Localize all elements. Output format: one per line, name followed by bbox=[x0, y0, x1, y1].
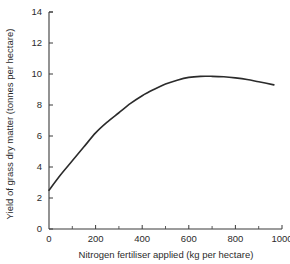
line-chart: Yield of grass dry matter (tonnes per he… bbox=[0, 0, 290, 264]
x-axis-title: Nitrogen fertiliser applied (kg per hect… bbox=[79, 249, 254, 260]
y-axis-title: Yield of grass dry matter (tonnes per he… bbox=[4, 29, 15, 220]
x-tick-label: 1000 bbox=[271, 233, 290, 244]
y-axis-tick-labels: 02468101214 bbox=[31, 6, 42, 234]
x-axis-tick-labels: 02004006008001000 bbox=[46, 233, 290, 244]
chart-figure: Yield of grass dry matter (tonnes per he… bbox=[0, 0, 290, 264]
y-tick-label: 2 bbox=[37, 192, 42, 203]
x-tick-label: 600 bbox=[181, 233, 197, 244]
x-tick-label: 400 bbox=[134, 233, 150, 244]
y-tick-label: 0 bbox=[37, 223, 42, 234]
x-tick-label: 0 bbox=[46, 233, 51, 244]
y-tick-label: 6 bbox=[37, 130, 42, 141]
x-tick-label: 200 bbox=[88, 233, 104, 244]
y-tick-label: 4 bbox=[37, 161, 42, 172]
y-axis-ticks bbox=[49, 12, 53, 229]
y-tick-label: 10 bbox=[31, 68, 42, 79]
y-tick-label: 8 bbox=[37, 99, 42, 110]
data-series-curve bbox=[49, 76, 274, 190]
y-tick-label: 12 bbox=[31, 37, 42, 48]
y-tick-label: 14 bbox=[31, 6, 42, 17]
x-tick-label: 800 bbox=[227, 233, 243, 244]
